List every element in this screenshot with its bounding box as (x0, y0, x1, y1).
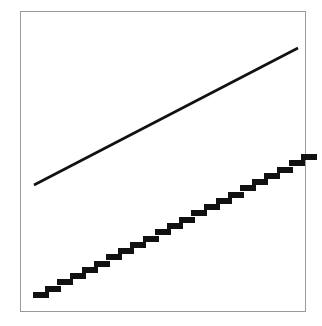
plot-canvas (0, 0, 322, 326)
step-block (228, 192, 244, 198)
step-block (70, 273, 86, 279)
series-quantized-step-line (33, 154, 317, 298)
step-block (277, 167, 293, 173)
step-block (106, 254, 122, 260)
step-block (118, 248, 134, 254)
step-block (167, 223, 183, 229)
continuous-line-path (34, 48, 298, 185)
step-block (216, 198, 232, 204)
step-block (143, 236, 159, 242)
step-block (252, 179, 268, 185)
step-block (33, 292, 49, 298)
step-block (57, 279, 73, 285)
figure-root (0, 0, 322, 326)
step-block (240, 185, 256, 191)
step-block (45, 286, 61, 292)
series-continuous-line (34, 48, 298, 185)
step-block (94, 261, 110, 267)
step-block (289, 160, 305, 166)
step-block (204, 204, 220, 210)
step-block (130, 242, 146, 248)
step-block (191, 210, 207, 216)
step-block (82, 267, 98, 273)
step-block (264, 173, 280, 179)
step-block (179, 217, 195, 223)
step-block (155, 229, 171, 235)
step-block (301, 154, 317, 160)
